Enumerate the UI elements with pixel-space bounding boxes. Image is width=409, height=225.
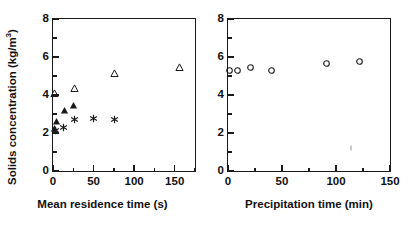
- data-point-open-circle: [355, 58, 362, 65]
- x-axis-title-left: Mean residence time (s): [0, 199, 205, 211]
- x-axis-tick: [133, 165, 134, 171]
- x-axis-tick-label: 50: [276, 176, 289, 188]
- y-axis-title-tail: ): [6, 29, 18, 33]
- data-point-asterisk: [71, 115, 78, 122]
- x-axis-tick: [389, 165, 390, 171]
- x-axis-tick: [93, 165, 94, 171]
- y-axis-tick-label: 6: [43, 51, 49, 63]
- scan-artifact: [350, 146, 352, 151]
- y-axis-minor-tick: [228, 75, 232, 76]
- data-point-asterisk: [59, 124, 66, 131]
- data-point-asterisk: [51, 127, 58, 134]
- y-axis-tick-label: 4: [43, 89, 49, 101]
- y-axis-tick: [53, 56, 59, 57]
- y-axis-minor-tick: [228, 113, 232, 114]
- y-axis-minor-tick: [53, 151, 57, 152]
- data-point-open-triangle: [110, 70, 117, 77]
- y-axis-tick: [228, 132, 234, 133]
- data-point-open-triangle: [71, 85, 78, 92]
- figure-container: Solids concentration (kg/m3) 02468050100…: [0, 0, 409, 225]
- x-axis-minor-tick: [308, 168, 309, 172]
- x-axis-minor-tick: [154, 168, 155, 172]
- y-axis-tick-label: 2: [218, 127, 224, 139]
- data-point-asterisk: [89, 115, 96, 122]
- x-axis-tick: [227, 165, 228, 171]
- x-axis-tick-label: 100: [326, 176, 345, 188]
- y-axis-title-left: Solids concentration (kg/m3): [5, 29, 18, 185]
- y-axis-minor-tick: [53, 75, 57, 76]
- x-axis-title-right: Precipitation time (min): [215, 199, 403, 211]
- plot-area-right: 02468050100150: [227, 18, 391, 172]
- x-axis-minor-tick: [194, 168, 195, 172]
- y-axis-title-text: Solids concentration (kg/m: [6, 37, 18, 185]
- y-axis-tick-label: 6: [218, 51, 224, 63]
- y-axis-tick: [228, 94, 234, 95]
- plot-area-left: 02468050100150: [52, 18, 196, 172]
- y-axis-minor-tick: [228, 151, 232, 152]
- chart-panel-left: Solids concentration (kg/m3) 02468050100…: [0, 0, 205, 225]
- x-axis-tick: [52, 165, 53, 171]
- x-axis-minor-tick: [113, 168, 114, 172]
- y-axis-minor-tick: [228, 37, 232, 38]
- x-axis-minor-tick: [254, 168, 255, 172]
- x-axis-tick-label: 150: [380, 176, 399, 188]
- y-axis-minor-tick: [53, 37, 57, 38]
- x-axis-minor-tick: [362, 168, 363, 172]
- x-axis-tick-label: 0: [225, 176, 231, 188]
- data-point-open-circle: [246, 63, 253, 70]
- x-axis-tick: [281, 165, 282, 171]
- chart-panel-right: 02468050100150 Precipitation time (min): [205, 0, 409, 225]
- y-axis-tick-label: 0: [218, 165, 224, 177]
- data-point-open-circle: [226, 67, 233, 74]
- x-axis-tick: [174, 165, 175, 171]
- y-axis-title-superscript: 3: [4, 33, 13, 37]
- y-axis-tick: [53, 170, 59, 171]
- x-axis-tick: [335, 165, 336, 171]
- y-axis-tick-label: 8: [43, 13, 49, 25]
- y-axis-tick: [228, 170, 234, 171]
- y-axis-tick: [228, 18, 234, 19]
- y-axis-tick-label: 8: [218, 13, 224, 25]
- data-point-open-triangle: [175, 63, 182, 70]
- data-point-filled-triangle: [70, 101, 77, 108]
- x-axis-tick-label: 50: [87, 176, 100, 188]
- y-axis-minor-tick: [53, 113, 57, 114]
- x-axis-tick-label: 100: [125, 176, 144, 188]
- y-axis-tick-label: 2: [43, 127, 49, 139]
- x-axis-tick-label: 150: [165, 176, 184, 188]
- x-axis-minor-tick: [73, 168, 74, 172]
- data-point-asterisk: [110, 116, 117, 123]
- data-point-open-triangle: [50, 90, 57, 97]
- x-axis-tick-label: 0: [50, 176, 56, 188]
- data-point-open-circle: [233, 67, 240, 74]
- data-point-filled-triangle: [60, 107, 67, 114]
- y-axis-tick-label: 4: [218, 89, 224, 101]
- data-point-open-circle: [323, 60, 330, 67]
- y-axis-tick: [228, 56, 234, 57]
- y-axis-tick-label: 0: [43, 165, 49, 177]
- y-axis-tick: [53, 18, 59, 19]
- data-point-open-circle: [268, 67, 275, 74]
